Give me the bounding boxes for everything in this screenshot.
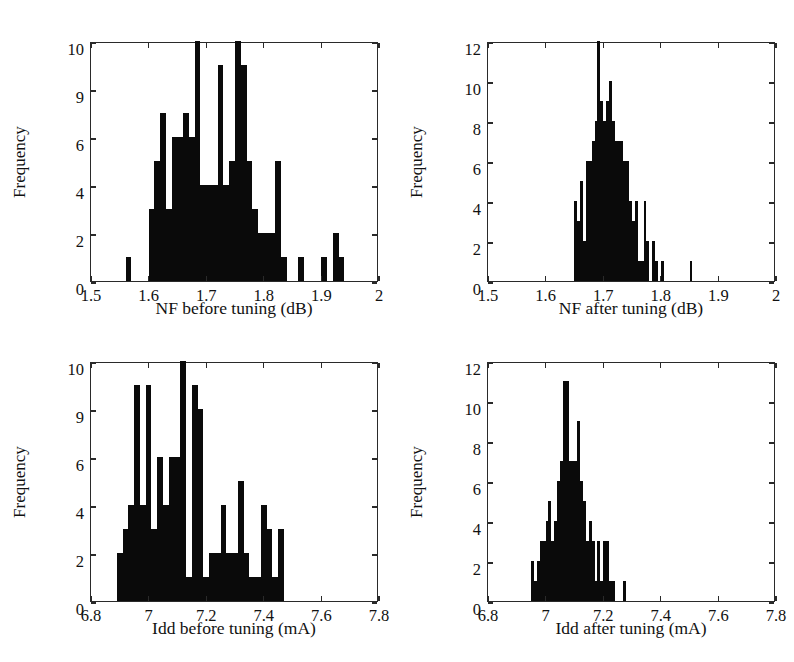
y-tick-mark-right xyxy=(372,362,377,363)
y-tick-label: 10 xyxy=(465,402,489,419)
x-tick-mark-top xyxy=(378,43,379,48)
x-tick-mark-top xyxy=(206,43,207,48)
bar-series-idd-after-tuning xyxy=(488,363,774,601)
y-tick-label: 10 xyxy=(68,362,92,379)
y-tick-mark xyxy=(488,402,493,403)
y-tick-label: 4 xyxy=(473,522,488,539)
y-tick-mark-right xyxy=(769,42,774,43)
y-tick-mark xyxy=(488,482,493,483)
y-tick-label: 10 xyxy=(465,82,489,99)
x-tick-label: 2 xyxy=(375,281,383,305)
x-tick-mark-top xyxy=(545,43,546,48)
y-tick-mark xyxy=(488,122,493,123)
bar xyxy=(612,581,615,601)
bar xyxy=(298,257,304,281)
x-tick-label: 2 xyxy=(772,281,780,305)
x-tick-label: 7.6 xyxy=(708,601,729,625)
chart-panel-idd-before-tuning: 02469106.877.27.47.67.8FrequencyIdd befo… xyxy=(0,330,397,650)
y-tick-label: 2 xyxy=(473,242,488,259)
y-tick-mark xyxy=(488,562,493,563)
x-tick-mark-top xyxy=(263,43,264,48)
y-tick-mark xyxy=(488,442,493,443)
x-tick-mark-top xyxy=(487,363,488,368)
y-tick-mark-right xyxy=(372,506,377,507)
y-tick-label: 9 xyxy=(76,90,91,107)
x-tick-label: 1.9 xyxy=(311,281,332,305)
bar xyxy=(690,261,693,281)
bar xyxy=(646,241,649,281)
y-tick-label: 2 xyxy=(76,554,91,571)
histogram-figure: 02469101.51.61.71.81.92FrequencyNF befor… xyxy=(0,0,794,662)
y-tick-label: 9 xyxy=(76,410,91,427)
y-tick-label: 4 xyxy=(76,506,91,523)
x-tick-label: 1.6 xyxy=(535,281,556,305)
x-tick-mark-top xyxy=(660,363,661,368)
x-tick-mark-top xyxy=(487,43,488,48)
y-tick-label: 10 xyxy=(68,42,92,59)
y-tick-label: 6 xyxy=(473,482,488,499)
y-tick-mark-right xyxy=(769,402,774,403)
x-tick-mark-top xyxy=(775,363,776,368)
x-tick-mark-top xyxy=(148,43,149,48)
y-tick-mark-right xyxy=(372,90,377,91)
bar xyxy=(278,529,284,601)
y-tick-mark-right xyxy=(372,138,377,139)
chart-panel-idd-after-tuning: 0246810126.877.27.47.67.8FrequencyIdd af… xyxy=(397,330,794,650)
y-tick-mark-right xyxy=(769,562,774,563)
y-tick-label: 8 xyxy=(473,122,488,139)
x-tick-label: 1.5 xyxy=(81,281,102,305)
y-tick-mark xyxy=(91,554,96,555)
y-tick-label: 6 xyxy=(76,138,91,155)
y-tick-label: 4 xyxy=(473,202,488,219)
y-tick-mark-right xyxy=(769,362,774,363)
x-tick-mark-top xyxy=(545,363,546,368)
x-tick-mark-top xyxy=(321,43,322,48)
bar xyxy=(180,361,186,601)
y-tick-mark xyxy=(91,458,96,459)
chart-panel-nf-before-tuning: 02469101.51.61.71.81.92FrequencyNF befor… xyxy=(0,10,397,330)
x-tick-label: 1.9 xyxy=(708,281,729,305)
chart-panel-nf-after-tuning: 0246810121.51.61.71.81.92FrequencyNF aft… xyxy=(397,10,794,330)
y-tick-mark xyxy=(91,42,96,43)
y-tick-mark xyxy=(488,202,493,203)
y-tick-mark xyxy=(488,42,493,43)
y-axis-label: Frequency xyxy=(10,446,30,518)
y-tick-mark xyxy=(91,234,96,235)
x-axis-label: Idd after tuning (mA) xyxy=(555,618,706,639)
y-tick-mark xyxy=(488,162,493,163)
y-tick-mark-right xyxy=(769,122,774,123)
y-axis-label: Frequency xyxy=(10,126,30,198)
y-tick-mark-right xyxy=(372,186,377,187)
y-tick-mark-right xyxy=(372,458,377,459)
y-tick-mark-right xyxy=(372,410,377,411)
bar-series-nf-before-tuning xyxy=(91,43,377,281)
x-tick-label: 7 xyxy=(541,601,549,625)
x-tick-label: 1.5 xyxy=(478,281,499,305)
y-tick-mark-right xyxy=(372,554,377,555)
x-tick-label: 7.8 xyxy=(369,601,390,625)
bar xyxy=(281,257,287,281)
y-tick-mark-right xyxy=(769,482,774,483)
y-tick-mark xyxy=(91,186,96,187)
y-tick-label: 6 xyxy=(473,162,488,179)
x-tick-mark-top xyxy=(718,363,719,368)
bar xyxy=(623,581,626,601)
x-axis-label: NF after tuning (dB) xyxy=(559,298,703,319)
y-tick-mark-right xyxy=(372,42,377,43)
x-tick-mark-top xyxy=(718,43,719,48)
y-tick-mark-right xyxy=(769,82,774,83)
y-tick-label: 2 xyxy=(473,562,488,579)
y-tick-mark xyxy=(91,410,96,411)
x-tick-mark-top xyxy=(321,363,322,368)
x-tick-mark-top xyxy=(90,363,91,368)
x-tick-mark-top xyxy=(90,43,91,48)
x-tick-mark-top xyxy=(603,363,604,368)
x-axis-label: NF before tuning (dB) xyxy=(156,298,313,319)
bar-series-nf-after-tuning xyxy=(488,43,774,281)
y-tick-label: 6 xyxy=(76,458,91,475)
x-tick-mark-top xyxy=(775,43,776,48)
y-tick-label: 12 xyxy=(465,362,489,379)
bar xyxy=(321,257,327,281)
y-tick-label: 12 xyxy=(465,42,489,59)
y-tick-mark xyxy=(91,362,96,363)
